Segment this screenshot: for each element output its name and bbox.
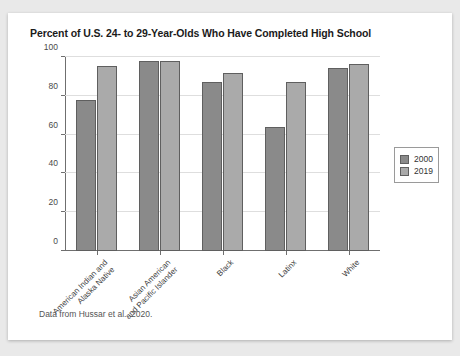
x-tick-mark bbox=[223, 251, 224, 255]
legend-item[interactable]: 2000 bbox=[400, 154, 433, 164]
bar-group bbox=[265, 57, 306, 251]
y-tick-label: 0 bbox=[53, 236, 58, 246]
x-tick-mark bbox=[349, 251, 350, 255]
y-tick-label: 60 bbox=[49, 120, 58, 130]
chart-card: Percent of U.S. 24- to 29-Year-Olds Who … bbox=[8, 13, 452, 340]
y-tick-mark bbox=[61, 56, 65, 57]
legend-swatch-icon bbox=[400, 155, 409, 164]
y-tick-label: 20 bbox=[49, 197, 58, 207]
bar[interactable] bbox=[202, 82, 222, 251]
bar-group bbox=[202, 57, 243, 251]
bar[interactable] bbox=[139, 61, 159, 251]
legend-label: 2019 bbox=[414, 166, 433, 176]
legend-swatch-icon bbox=[400, 167, 409, 176]
source-note: Data from Hussar et al., 2020. bbox=[39, 309, 152, 319]
y-tick-mark bbox=[61, 95, 65, 96]
bar-group bbox=[76, 57, 117, 251]
y-tick-mark bbox=[61, 172, 65, 173]
x-tick-mark bbox=[97, 251, 98, 255]
x-tick-label: White bbox=[340, 258, 362, 280]
bar-group bbox=[139, 57, 180, 251]
y-tick-label: 80 bbox=[49, 81, 58, 91]
legend-label: 2000 bbox=[414, 154, 433, 164]
bar[interactable] bbox=[76, 100, 96, 251]
legend-item[interactable]: 2019 bbox=[400, 166, 433, 176]
bar[interactable] bbox=[160, 61, 180, 251]
bar[interactable] bbox=[286, 82, 306, 251]
x-tick-label: Black bbox=[215, 258, 236, 279]
bar[interactable] bbox=[223, 73, 243, 251]
bar[interactable] bbox=[97, 66, 117, 251]
bar[interactable] bbox=[349, 64, 369, 251]
plot-area: 020406080100 American Indian andAlaska N… bbox=[65, 57, 380, 251]
y-tick-mark bbox=[61, 250, 65, 251]
chart-legend: 20002019 bbox=[394, 147, 439, 183]
bar-group bbox=[328, 57, 369, 251]
x-tick-mark bbox=[160, 251, 161, 255]
chart-title: Percent of U.S. 24- to 29-Year-Olds Who … bbox=[30, 27, 371, 39]
bar[interactable] bbox=[328, 68, 348, 251]
bar[interactable] bbox=[265, 127, 285, 251]
y-tick-mark bbox=[61, 134, 65, 135]
x-tick-mark bbox=[286, 251, 287, 255]
y-tick-label: 100 bbox=[44, 42, 58, 52]
x-tick-label: Latinx bbox=[276, 258, 298, 280]
y-tick-mark bbox=[61, 211, 65, 212]
y-tick-label: 40 bbox=[49, 158, 58, 168]
